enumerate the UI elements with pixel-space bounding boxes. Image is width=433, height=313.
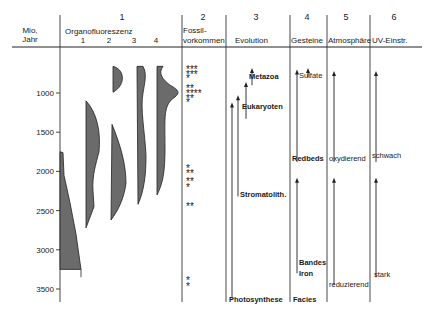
label-photosynthese: Photosynthese [229, 295, 283, 304]
organofluoreszenz-shape-2 [86, 101, 99, 228]
fossil-marker: * [186, 97, 190, 108]
column-1-sub-4: 4 [154, 36, 159, 45]
organofluoreszenz-shape-3 [113, 66, 122, 92]
column-5-number: 5 [343, 12, 348, 22]
column-6-number: 6 [391, 12, 396, 22]
labels: MetazoaEukaryotenStromatolith.Photosynth… [229, 71, 401, 303]
organofluoreszenz-shape-6 [157, 66, 178, 195]
column-3-number: 3 [253, 12, 258, 22]
arrow-reduzierend-head [332, 178, 336, 183]
y-axis-label-line1: Mio, [22, 26, 37, 35]
column-2-title-line1: Fossil- [183, 26, 207, 35]
column-2-title-line2: vorkommen [183, 36, 225, 45]
label-bandes: Bandes [299, 258, 326, 267]
column-1-sub-3: 3 [132, 36, 137, 45]
y-tick-label: 3500 [36, 285, 54, 294]
y-axis-ticks: 100015002000250030003500 [36, 89, 60, 294]
column-3-title: Evolution [235, 36, 268, 45]
y-tick-label: 1500 [36, 128, 54, 137]
fossil-occurrences: ************************** [186, 64, 202, 291]
label-redbeds: Redbeds [292, 154, 324, 163]
label-sulfate: Sulfate [299, 71, 322, 80]
arrow-stark-head [374, 178, 378, 183]
label-eukaryoten: Eukaryoten [242, 102, 283, 111]
organofluoreszenz-shape-5 [137, 66, 146, 204]
label-oxydierend: oxydierend [329, 154, 366, 163]
geologic-evolution-chart: Mio, Jahr 1 Organofluoreszenz 1 2 3 4 2 … [0, 0, 433, 313]
label-reduzierend: reduzierend [329, 280, 369, 289]
y-tick-label: 3000 [36, 246, 54, 255]
header: Mio, Jahr 1 Organofluoreszenz 1 2 3 4 2 … [12, 12, 422, 47]
arrow-photosynthese-head [230, 102, 234, 107]
fossil-marker: * [186, 281, 190, 292]
organofluoreszenz-shape-4 [111, 124, 126, 220]
label-metazoa: Metazoa [249, 72, 279, 81]
column-1-number: 1 [119, 12, 124, 22]
arrow-stromatolith-head [236, 95, 240, 100]
label-schwach: schwach [372, 151, 401, 160]
column-6-title: UV-Einstr. [372, 36, 408, 45]
fossil-marker: * [186, 182, 190, 193]
label-iron: Iron [299, 269, 314, 278]
fossil-marker: ** [186, 201, 194, 212]
organofluoreszenz-shapes [60, 66, 178, 277]
y-tick-label: 2000 [36, 167, 54, 176]
organofluoreszenz-shape-1 [60, 152, 81, 270]
arrow-schwach-head [374, 71, 378, 76]
y-axis-label-line2: Jahr [22, 35, 38, 44]
label-facies: Facies [293, 295, 316, 304]
column-2-number: 2 [200, 12, 205, 22]
arrow-eukaryoten-head [244, 82, 248, 87]
column-4-number: 4 [304, 12, 309, 22]
y-tick-label: 1000 [36, 89, 54, 98]
column-1-sub-2: 2 [107, 36, 112, 45]
label-stark: stark [374, 270, 391, 279]
arrow-banded-iron-head [295, 178, 299, 183]
y-tick-label: 2500 [36, 207, 54, 216]
arrow-oxydierend-head [332, 71, 336, 76]
column-1-title: Organofluoreszenz [65, 27, 133, 36]
label-stromatolith: Stromatolith. [240, 190, 286, 199]
column-5-title: Atmosphäre [328, 36, 372, 45]
column-4-title: Gesteine [291, 36, 324, 45]
column-1-sub-1: 1 [81, 36, 86, 45]
